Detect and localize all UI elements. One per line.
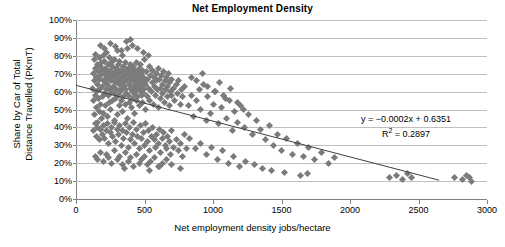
x-tick-mark bbox=[350, 200, 351, 204]
x-tick-mark bbox=[145, 200, 146, 204]
y-tick-label: 60% bbox=[38, 88, 72, 97]
x-tick-label: 500 bbox=[125, 205, 165, 215]
y-tick-label: 100% bbox=[38, 16, 72, 25]
chart-container: Net Employment Density 0%10%20%30%40%50%… bbox=[0, 0, 505, 247]
x-tick-label: 0 bbox=[56, 205, 96, 215]
trendline-equation-annotation: y = −0.0002x + 0.6351 R2 = 0.2897 bbox=[330, 113, 482, 140]
x-axis-title: Net employment density jobs/hectare bbox=[0, 222, 505, 233]
x-tick-mark bbox=[487, 200, 488, 204]
y-tick-label: 90% bbox=[38, 34, 72, 43]
r-squared-text: R2 = 0.2897 bbox=[330, 125, 482, 140]
x-tick-mark bbox=[76, 200, 77, 204]
x-tick-mark bbox=[213, 200, 214, 204]
x-tick-label: 1000 bbox=[193, 205, 233, 215]
y-tick-label: 20% bbox=[38, 159, 72, 168]
x-tick-label: 3000 bbox=[467, 205, 505, 215]
x-tick-mark bbox=[419, 200, 420, 204]
y-tick-label: 80% bbox=[38, 52, 72, 61]
y-axis-title-line1: Share by Car of Total bbox=[11, 59, 22, 148]
y-axis-title: Share by Car of Total Distance Travelled… bbox=[11, 19, 35, 189]
x-axis-tick-labels: 050010001500200025003000 bbox=[76, 200, 488, 220]
y-tick-label: 10% bbox=[38, 177, 72, 186]
y-tick-label: 0% bbox=[38, 195, 72, 204]
chart-title: Net Employment Density bbox=[0, 3, 505, 14]
x-tick-label: 2000 bbox=[330, 205, 370, 215]
x-tick-mark bbox=[282, 200, 283, 204]
x-tick-label: 2500 bbox=[399, 205, 439, 215]
plot-area bbox=[76, 20, 487, 199]
trendline bbox=[76, 20, 487, 199]
y-tick-label: 40% bbox=[38, 123, 72, 132]
y-tick-label: 70% bbox=[38, 70, 72, 79]
y-axis-title-line2: Distance Travelled (PKmT) bbox=[23, 47, 34, 161]
y-tick-label: 30% bbox=[38, 141, 72, 150]
x-tick-label: 1500 bbox=[262, 205, 302, 215]
y-tick-label: 50% bbox=[38, 106, 72, 115]
equation-text: y = −0.0002x + 0.6351 bbox=[330, 113, 482, 125]
